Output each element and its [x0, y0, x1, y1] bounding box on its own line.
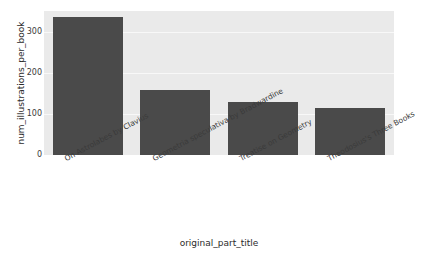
y-axis-tick-labels: 0100200300: [18, 0, 42, 267]
plot-area: [44, 11, 394, 155]
y-tick-label: 300: [20, 28, 42, 36]
y-tick-label: 0: [20, 151, 42, 159]
y-tick-label: 200: [20, 69, 42, 77]
x-axis-title: original_part_title: [44, 238, 394, 248]
y-tick-label: 100: [20, 110, 42, 118]
bar-chart-figure: num_illustrations_per_book 0100200300 On…: [0, 0, 443, 267]
x-axis-tick-labels: On Astrolabes by ClaviusGeometria specul…: [44, 155, 394, 235]
